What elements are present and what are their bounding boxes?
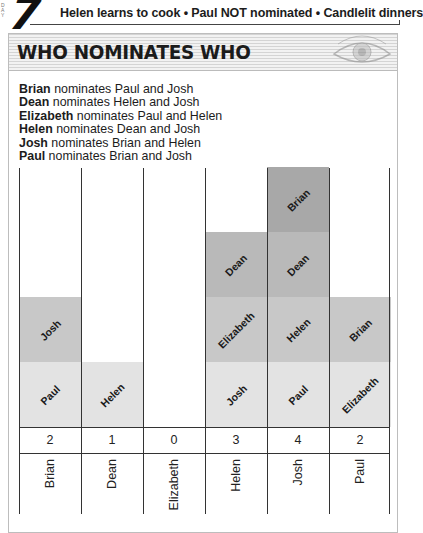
bar-segment: Elizabeth (329, 362, 391, 427)
bar-segment: Paul (267, 362, 329, 427)
category-text: Paul (353, 459, 367, 484)
nominator-name: Josh (19, 136, 48, 150)
category-text: Elizabeth (167, 459, 181, 510)
vote-count: 0 (143, 427, 205, 453)
nominator-name: Elizabeth (19, 109, 73, 123)
nomination-text: nominates Paul and Helen (73, 109, 222, 123)
nomination-text: nominates Brian and Helen (48, 136, 201, 150)
column-divider (205, 168, 206, 514)
segment-label: Paul (286, 382, 310, 406)
bar-josh: PaulHelenDeanBrian4Josh (267, 168, 329, 514)
column-divider (267, 168, 268, 514)
bar-segment: Paul (19, 362, 81, 427)
vote-count: 2 (19, 427, 81, 453)
column-divider (19, 168, 20, 514)
bar-elizabeth: 0Elizabeth (143, 168, 205, 514)
segment-label: Elizabeth (215, 309, 256, 350)
nominations-chart: PaulJosh2BrianHelen1Dean0ElizabethJoshEl… (19, 168, 390, 514)
side-label: DAY (1, 3, 7, 18)
category-label: Elizabeth (143, 453, 205, 514)
nomination-text: nominates Helen and Josh (49, 95, 199, 109)
category-label: Helen (205, 453, 267, 514)
segment-label: Paul (38, 382, 62, 406)
nomination-line: Elizabeth nominates Paul and Helen (19, 110, 222, 123)
nomination-line: Josh nominates Brian and Helen (19, 137, 222, 150)
vote-count: 2 (329, 427, 391, 453)
nomination-line: Paul nominates Brian and Josh (19, 150, 222, 163)
row-divider (19, 427, 390, 428)
nomination-text: nominates Paul and Josh (51, 82, 194, 96)
header-rule-tick (399, 20, 400, 25)
row-divider (19, 453, 390, 454)
nominator-name: Brian (19, 82, 51, 96)
segment-label: Josh (37, 317, 63, 343)
nominator-name: Dean (19, 95, 49, 109)
category-label: Josh (267, 453, 329, 514)
column-divider (143, 168, 144, 514)
nomination-line: Dean nominates Helen and Josh (19, 96, 222, 109)
category-label: Dean (81, 453, 143, 514)
column-divider (81, 168, 82, 514)
panel-title: WHO NOMINATES WHO (17, 40, 251, 64)
category-label: Paul (329, 453, 391, 514)
category-text: Brian (43, 459, 57, 488)
bar-brian: PaulJosh2Brian (19, 168, 81, 514)
column-divider (329, 168, 330, 514)
bar-segment: Josh (205, 362, 267, 427)
nomination-line: Brian nominates Paul and Josh (19, 83, 222, 96)
category-label: Brian (19, 453, 81, 514)
bar-segment: Dean (267, 232, 329, 297)
bar-helen: JoshElizabethDean3Helen (205, 168, 267, 514)
bar-paul: ElizabethBrian2Paul (329, 168, 391, 514)
headline: Helen learns to cook • Paul NOT nominate… (60, 6, 423, 20)
vote-count: 1 (81, 427, 143, 453)
nominator-name: Paul (19, 149, 45, 163)
category-text: Josh (291, 459, 305, 485)
segment-label: Helen (284, 315, 313, 344)
category-text: Dean (105, 459, 119, 489)
segment-label: Josh (223, 382, 249, 408)
vote-count: 3 (205, 427, 267, 453)
nomination-text: nominates Brian and Josh (45, 149, 192, 163)
segment-label: Helen (98, 380, 127, 409)
bar-segment: Brian (267, 167, 329, 232)
segment-label: Dean (285, 251, 312, 278)
bar-segment: Elizabeth (205, 297, 267, 362)
bar-dean: Helen1Dean (81, 168, 143, 514)
bar-segment: Helen (267, 297, 329, 362)
day-number: 7 (8, 0, 43, 36)
bar-segment: Helen (81, 362, 143, 427)
segment-label: Brian (284, 186, 311, 213)
nominator-name: Helen (19, 122, 53, 136)
segment-label: Brian (346, 316, 373, 343)
bar-segment: Josh (19, 297, 81, 362)
segment-label: Elizabeth (339, 374, 380, 415)
vote-count: 4 (267, 427, 329, 453)
eye-icon (330, 34, 394, 70)
category-text: Helen (229, 459, 243, 492)
bar-segment: Brian (329, 297, 391, 362)
nomination-line: Helen nominates Dean and Josh (19, 123, 222, 136)
segment-label: Dean (223, 251, 250, 278)
column-divider (389, 168, 390, 514)
header-rule (30, 24, 400, 25)
bar-segment: Dean (205, 232, 267, 297)
nominations-list: Brian nominates Paul and JoshDean nomina… (19, 83, 222, 163)
nomination-text: nominates Dean and Josh (53, 122, 200, 136)
